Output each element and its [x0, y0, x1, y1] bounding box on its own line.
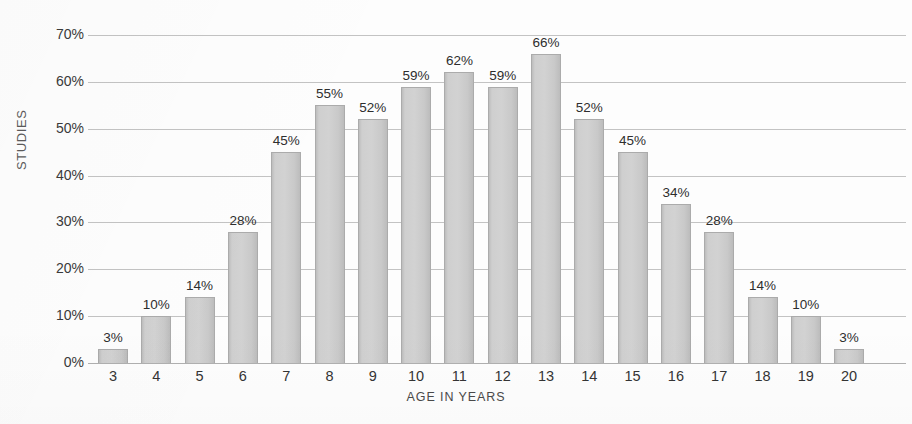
x-axis-tick-label: 14: [567, 368, 611, 384]
x-axis-tick-label: 15: [611, 368, 655, 384]
y-axis-tick-label: 70%: [38, 26, 84, 42]
bar: [574, 119, 604, 363]
y-axis-tick-label: 50%: [38, 120, 84, 136]
bar-value-label: 45%: [256, 133, 316, 148]
bar-value-label: 59%: [386, 68, 446, 83]
plot-area: 0%10%20%30%40%50%60%70% 3%10%14%28%45%55…: [0, 0, 912, 424]
y-axis-tick-label: 0%: [38, 354, 84, 370]
y-axis-tick-label: 60%: [38, 73, 84, 89]
bar-value-label: 66%: [516, 35, 576, 50]
bar: [228, 232, 258, 363]
y-axis-tick-label: 30%: [38, 213, 84, 229]
bar-value-label: 28%: [689, 213, 749, 228]
gridline: [88, 35, 906, 36]
bar: [185, 297, 215, 363]
bar-value-label: 55%: [300, 86, 360, 101]
bar-value-label: 3%: [83, 330, 143, 345]
bar-value-label: 28%: [213, 213, 273, 228]
x-axis-tick-label: 10: [394, 368, 438, 384]
bar-value-label: 34%: [646, 185, 706, 200]
bar-value-label: 3%: [819, 330, 879, 345]
bar: [358, 119, 388, 363]
gridline: [88, 363, 906, 364]
bar-value-label: 59%: [473, 68, 533, 83]
bar: [531, 54, 561, 363]
x-axis-tick-label: 16: [654, 368, 698, 384]
bar-value-label: 10%: [776, 297, 836, 312]
bar-value-label: 52%: [343, 100, 403, 115]
x-axis-tick-label: 18: [741, 368, 785, 384]
x-axis-tick-label: 20: [827, 368, 871, 384]
bar-value-label: 52%: [559, 100, 619, 115]
x-axis-tick-label: 19: [784, 368, 828, 384]
bar: [748, 297, 778, 363]
bar: [834, 349, 864, 363]
x-axis-tick-label: 6: [221, 368, 265, 384]
x-axis-tick-label: 9: [351, 368, 395, 384]
y-axis-tick-label: 20%: [38, 260, 84, 276]
bar: [488, 87, 518, 363]
bar: [791, 316, 821, 363]
bar: [141, 316, 171, 363]
bar-value-label: 10%: [126, 297, 186, 312]
bar-value-label: 62%: [429, 53, 489, 68]
x-axis-tick-label: 17: [697, 368, 741, 384]
bar: [661, 204, 691, 363]
x-axis-tick-label: 7: [264, 368, 308, 384]
bar: [315, 105, 345, 363]
x-axis-tick-label: 3: [91, 368, 135, 384]
bar: [704, 232, 734, 363]
x-axis-tick-label: 11: [437, 368, 481, 384]
bar: [401, 87, 431, 363]
bar-value-label: 45%: [603, 133, 663, 148]
bar: [98, 349, 128, 363]
x-axis-tick-label: 8: [308, 368, 352, 384]
x-axis-tick-label: 4: [134, 368, 178, 384]
x-axis-tick-label: 13: [524, 368, 568, 384]
x-axis-tick-label: 12: [481, 368, 525, 384]
y-axis-tick-label: 10%: [38, 307, 84, 323]
bar-value-label: 14%: [733, 278, 793, 293]
x-axis-title: AGE IN YEARS: [0, 390, 912, 404]
bar-value-label: 14%: [170, 278, 230, 293]
bar: [618, 152, 648, 363]
x-axis-tick-label: 5: [178, 368, 222, 384]
bar: [444, 72, 474, 363]
bar-chart-figure: STUDIES 0%10%20%30%40%50%60%70% 3%10%14%…: [0, 0, 912, 424]
bar: [271, 152, 301, 363]
y-axis-tick-label: 40%: [38, 167, 84, 183]
